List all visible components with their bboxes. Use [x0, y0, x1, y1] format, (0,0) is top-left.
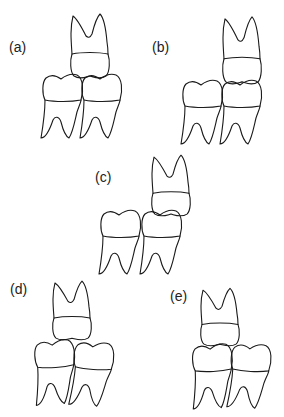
- panel-label-c: (c): [95, 169, 111, 185]
- panel-c: [99, 155, 190, 274]
- panel-a: [41, 14, 122, 138]
- panel-label-a: (a): [9, 39, 26, 55]
- teeth-diagram: [0, 0, 284, 417]
- panel-label-e: (e): [170, 288, 187, 304]
- panel-label-b: (b): [152, 39, 169, 55]
- panel-b: [181, 17, 262, 144]
- panel-e: [190, 288, 272, 409]
- panel-label-d: (d): [10, 281, 27, 297]
- panel-d: [32, 281, 115, 407]
